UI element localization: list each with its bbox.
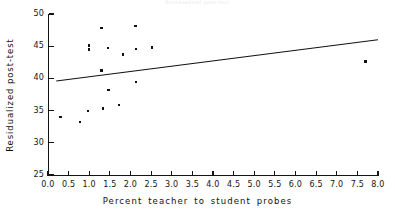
y-axis-tick-label: 50 <box>14 10 44 18</box>
y-axis-tick-label: 25 <box>14 171 44 179</box>
y-axis-title: Residualized post-test <box>5 5 15 185</box>
scatter-plot-figure: Residualized post-test 2530354045500.00.… <box>0 0 395 218</box>
y-axis-tick-label: 35 <box>14 107 44 115</box>
x-axis-tick-label: 8.0 <box>364 181 392 189</box>
y-axis-tick-label: 40 <box>14 74 44 82</box>
y-axis-tick-label: 30 <box>14 139 44 147</box>
x-axis-title: Percent teacher to student probes <box>0 196 395 206</box>
y-axis-title-wrap: Residualized post-test <box>0 0 18 190</box>
y-axis-tick-label: 45 <box>14 42 44 50</box>
